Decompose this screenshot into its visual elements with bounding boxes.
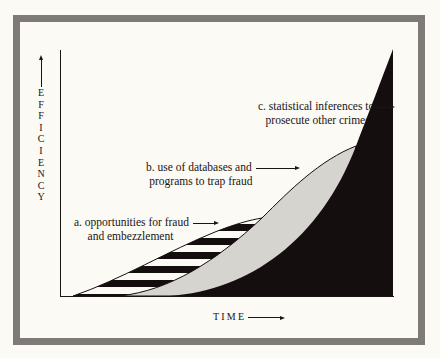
- y-letter: E: [34, 157, 48, 169]
- up-arrow-shaft: [41, 60, 42, 87]
- y-letter: I: [34, 145, 48, 157]
- annotation-a-line2: and embezzlement: [74, 229, 215, 243]
- y-axis-letters: E F F I C I E N C Y: [34, 87, 48, 203]
- x-axis-text: TIME: [213, 311, 246, 322]
- y-letter: I: [34, 122, 48, 134]
- annotation-c: c. statistical inferences to prosecute o…: [258, 99, 391, 127]
- annotation-b-line1: b. use of databases and: [146, 161, 252, 173]
- y-letter: Y: [34, 191, 48, 203]
- arrow-icon: [256, 168, 296, 169]
- y-axis-label: E F F I C I E N C Y: [34, 55, 48, 203]
- annotation-a: a. opportunities for fraud and embezzlem…: [74, 215, 215, 243]
- y-letter: E: [34, 87, 48, 99]
- y-letter: F: [34, 110, 48, 122]
- annotation-b: b. use of databases and programs to trap…: [146, 160, 296, 188]
- arrow-icon: [193, 223, 215, 224]
- annotation-b-line2: programs to trap fraud: [146, 174, 296, 188]
- annotation-c-line2: prosecute other crimes: [258, 113, 391, 127]
- right-arrow-shaft: [248, 317, 280, 318]
- annotation-a-line1: a. opportunities for fraud: [74, 216, 189, 228]
- y-letter: N: [34, 168, 48, 180]
- y-letter: C: [34, 180, 48, 192]
- arrow-icon: [378, 107, 391, 108]
- right-arrow-icon: [280, 316, 285, 320]
- y-letter: C: [34, 133, 48, 145]
- x-axis-label: TIME: [213, 311, 285, 322]
- annotation-c-line1: c. statistical inferences to: [258, 100, 374, 112]
- y-letter: F: [34, 99, 48, 111]
